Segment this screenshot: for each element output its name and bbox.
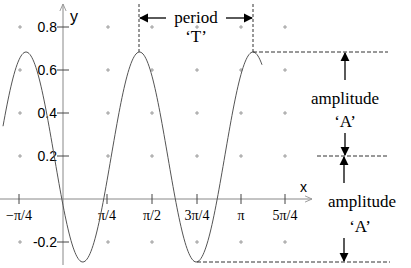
grid-plus-icon <box>283 25 287 29</box>
amplitude-upper-label: amplitude <box>311 89 379 108</box>
y-tick-label: 0.6 <box>38 62 58 78</box>
grid-plus-icon <box>106 154 110 158</box>
grid-plus-icon <box>150 240 154 244</box>
period-label: period <box>174 8 218 27</box>
x-tick-label: π/2 <box>143 208 161 223</box>
grid-plus-icon <box>106 240 110 244</box>
period-symbol: ‘T’ <box>185 27 207 46</box>
x-ticks: −π/4π/4π/23π/4π5π/4 <box>6 194 297 223</box>
grid-plus-icon <box>195 240 199 244</box>
grid-plus-icon <box>195 111 199 115</box>
grid-plus-icon <box>283 68 287 72</box>
grid-plus-icon <box>18 154 22 158</box>
grid-plus-icon <box>283 240 287 244</box>
grid-plus-icon <box>106 111 110 115</box>
x-tick-label: 5π/4 <box>273 208 298 223</box>
x-tick-label: −π/4 <box>6 208 32 223</box>
grid-plus-icon <box>106 25 110 29</box>
y-tick-label: -0.2 <box>33 234 57 250</box>
grid-plus-icon <box>195 68 199 72</box>
grid-plus-icon <box>239 154 243 158</box>
sinusoid-diagram: x y −π/4π/4π/23π/4π5π/4 0.80.60.40.2-0.2… <box>0 0 411 268</box>
grid-plus-icon <box>239 25 243 29</box>
grid-plus-icon <box>283 154 287 158</box>
amplitude-lower-symbol: ‘A’ <box>349 217 371 236</box>
grid-plus-icon <box>18 25 22 29</box>
grid-plus-icon <box>239 111 243 115</box>
x-tick-label: 3π/4 <box>185 208 210 223</box>
grid-plus-icon <box>150 111 154 115</box>
grid-plus-icon <box>18 68 22 72</box>
amplitude-lower-label: amplitude <box>328 192 396 211</box>
grid-plus-icon <box>106 68 110 72</box>
grid-plus-icon <box>150 25 154 29</box>
x-axis-label: x <box>300 179 307 195</box>
grid-plus-icon <box>150 154 154 158</box>
x-tick-label: π <box>237 208 244 223</box>
y-tick-label: 0.8 <box>38 19 58 35</box>
amplitude-upper-symbol: ‘A’ <box>334 112 356 131</box>
grid-plus-icon <box>18 111 22 115</box>
grid-plus-icon <box>239 240 243 244</box>
grid-plus-icon <box>18 240 22 244</box>
y-axis-label: y <box>70 8 78 25</box>
grid-plus-icon <box>283 111 287 115</box>
grid-plus-icon <box>195 154 199 158</box>
